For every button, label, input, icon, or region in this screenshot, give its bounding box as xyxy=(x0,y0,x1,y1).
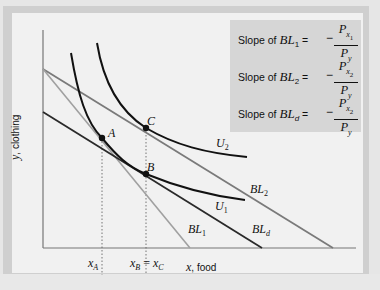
bl2-label-sub: 2 xyxy=(264,189,268,198)
bl1-label-sub: 1 xyxy=(202,229,206,238)
u2-label-main: U xyxy=(216,136,225,150)
slope-formula-box: Slope of BL1 = − Px1 Py Slope of BL2 = −… xyxy=(230,20,361,132)
x-tick-xb-xc: xB = xC xyxy=(130,256,164,272)
bl2-label: BL2 xyxy=(250,182,268,198)
den-p: P xyxy=(340,120,348,134)
xa-sub: A xyxy=(93,263,98,272)
formula-bld-fraction: Px2 Py xyxy=(334,97,358,139)
num-sub-index: 2 xyxy=(350,70,354,78)
bld-label-sub: d xyxy=(266,229,270,238)
formula-bld-denominator: Py xyxy=(334,121,358,139)
y-axis-label: y, clothing xyxy=(8,115,23,160)
formula-bld-prefix: Slope of xyxy=(238,108,279,120)
formula-bl1-numerator: Px1 xyxy=(334,23,358,44)
u1-label-sub: 1 xyxy=(224,206,228,215)
formula-row-bl2: Slope of BL2 = − Px2 Py xyxy=(230,59,361,95)
xb-xc-equals: = xyxy=(143,256,150,270)
point-a-label: A xyxy=(108,126,115,141)
num-sub-index: 1 xyxy=(350,33,354,41)
point-c-label: C xyxy=(147,114,155,129)
formula-bl1-eq: = xyxy=(299,34,308,46)
formula-bl1-prefix: Slope of xyxy=(238,34,279,46)
u1-label-main: U xyxy=(215,199,224,213)
formula-bld-sign: − xyxy=(326,105,333,119)
formula-bl2-label: Slope of BL2 = xyxy=(238,69,308,86)
formula-bld-eq: = xyxy=(299,108,308,120)
formula-bl2-numerator: Px2 xyxy=(334,60,358,81)
formula-bl2-prefix: Slope of xyxy=(238,71,279,83)
xc-sub: C xyxy=(158,263,163,272)
y-axis-text: , clothing xyxy=(10,115,21,155)
point-a-marker xyxy=(99,135,105,141)
formula-row-bld: Slope of BLd = − Px2 Py xyxy=(230,96,361,132)
bld-label: BLd xyxy=(252,222,270,238)
den-sub-y: y xyxy=(348,128,352,137)
bl1-label-main: BL xyxy=(188,222,202,236)
bl2-label-main: BL xyxy=(250,182,264,196)
den-p: P xyxy=(340,46,348,60)
bld-label-main: BL xyxy=(252,222,266,236)
formula-bld-label: Slope of BLd = xyxy=(238,106,308,123)
formula-bl2-line: BL xyxy=(279,69,294,84)
formula-row-bl1: Slope of BL1 = − Px1 Py xyxy=(230,22,361,58)
x-axis-text: , food xyxy=(191,262,216,273)
num-sub-index: 2 xyxy=(350,107,354,115)
x-axis-label: x, food xyxy=(186,260,216,275)
y-axis-var: y xyxy=(8,155,22,160)
den-p: P xyxy=(340,83,348,97)
xb-sub: B xyxy=(135,263,140,272)
formula-bl2-sign: − xyxy=(326,68,333,82)
x-tick-xa: xA xyxy=(88,256,98,272)
bl1-label: BL1 xyxy=(188,222,206,238)
formula-bld-line: BL xyxy=(279,106,294,121)
u2-label-sub: 2 xyxy=(225,143,229,152)
formula-bld-numerator: Px2 xyxy=(334,97,358,118)
point-b-label: B xyxy=(147,160,154,175)
formula-bl1-label: Slope of BL1 = xyxy=(238,32,308,49)
formula-bl1-sign: − xyxy=(326,31,333,45)
formula-bl1-line: BL xyxy=(279,32,294,47)
formula-bl2-eq: = xyxy=(299,71,308,83)
u2-label: U2 xyxy=(216,136,229,152)
u1-label: U1 xyxy=(215,199,228,215)
